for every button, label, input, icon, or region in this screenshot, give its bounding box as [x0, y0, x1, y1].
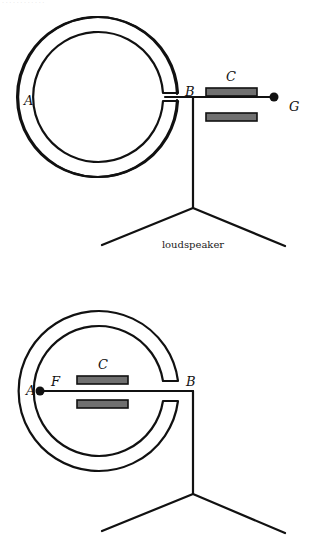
- loudspeaker-symbol: [102, 494, 285, 533]
- split-ring-body: [18, 17, 178, 177]
- label-b: B: [184, 84, 195, 99]
- figure-top: A B C G loudspeaker: [17, 17, 299, 250]
- label-f: F: [50, 374, 61, 389]
- label-c: C: [226, 69, 236, 84]
- loudspeaker-caption: loudspeaker: [162, 239, 224, 250]
- capacitor-plate-lower: [206, 113, 257, 121]
- terminal-a-dot: [36, 387, 45, 396]
- capacitor-plate-upper: [77, 376, 128, 384]
- label-b: B: [185, 374, 196, 389]
- cropped-header-text: · · · · · · · · · · · ·: [2, 0, 44, 5]
- label-a: A: [25, 383, 35, 398]
- label-g: G: [289, 99, 299, 114]
- label-a: A: [23, 93, 33, 108]
- diagram-canvas: · · · · · · · · · · · · A B C G loudspea…: [0, 0, 309, 544]
- capacitor-plate-lower: [77, 400, 128, 408]
- terminal-g-dot: [270, 93, 279, 102]
- label-c: C: [98, 357, 108, 372]
- figure-bottom: A F C B: [19, 311, 285, 533]
- capacitor-plate-upper: [206, 88, 257, 96]
